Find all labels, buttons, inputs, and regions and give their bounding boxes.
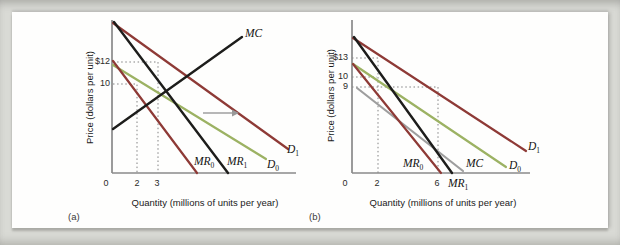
panel-a-label-d1: D1 (287, 143, 299, 155)
panel-b-ytick-10: 10 (316, 71, 348, 81)
panel-a-y-axis-title: Price (dollars per unit) (84, 23, 95, 173)
panel-b-xtick-6: 6 (430, 178, 444, 188)
panel-a-tag: (a) (68, 211, 80, 222)
panel-a-xtick-3: 3 (150, 178, 164, 188)
panel-b-label-mr1: MR1 (448, 177, 468, 189)
panel-b-ytick-9: 9 (316, 81, 348, 91)
panel-b-tag: (b) (309, 211, 321, 222)
figure: Price (dollars per unit) $12 10 0 2 3 Qu… (0, 0, 620, 245)
panel-b-label-d1: D1 (528, 140, 540, 152)
panel-a-xtick-2: 2 (130, 178, 144, 188)
panel-a-ytick-12: $12 (78, 56, 110, 66)
panel-a-ytick-10: 10 (78, 78, 110, 88)
panel-a-label-d0: D0 (267, 158, 279, 170)
panel-a-xtick-0: 0 (99, 178, 113, 188)
figure-card (12, 12, 608, 228)
panel-b-xtick-0: 0 (338, 178, 352, 188)
panel-b-label-mc: MC (466, 157, 483, 169)
panel-a-label-mc: MC (245, 27, 262, 39)
panel-a-label-mr1: MR1 (227, 155, 247, 167)
panel-b-x-axis-title: Quantity (millions of units per year) (352, 197, 534, 208)
panel-b-label-mr0: MR0 (403, 157, 423, 169)
panel-a-label-mr0: MR0 (194, 155, 214, 167)
panel-b-xtick-2: 2 (370, 178, 384, 188)
panel-a-x-axis-title: Quantity (millions of units per year) (110, 197, 300, 208)
panel-b-ytick-13: $13 (316, 52, 348, 62)
panel-b-y-axis-title: Price (dollars per unit) (325, 21, 336, 171)
panel-b-label-d0: D0 (509, 159, 521, 171)
